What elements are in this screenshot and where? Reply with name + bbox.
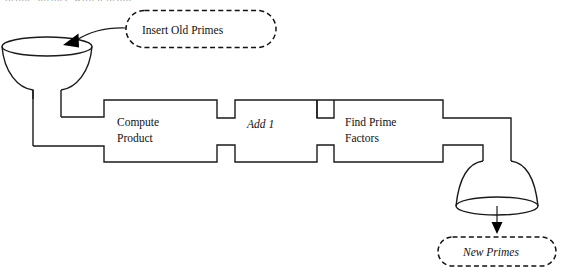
stage-compute-product-label-line2: Product [117, 132, 154, 144]
output-arrow-head [492, 222, 503, 234]
diagram-canvas: Insert Old Primes Compute Product Add 1 … [0, 0, 567, 270]
pipeline-connectors [317, 100, 334, 118]
stage-find-prime-factors-label-line2: Factors [345, 132, 379, 144]
connector-add1-left-top [317, 100, 334, 118]
input-funnel [2, 37, 92, 146]
stage-find-prime-factors-label-line1: Find Prime [345, 116, 396, 128]
stage-add-one[interactable]: Add 1 [246, 118, 274, 130]
pipeline-bottom-wall [33, 145, 483, 162]
insert-arrow-head [63, 34, 79, 48]
stage-compute-product[interactable]: Compute Product [117, 116, 159, 144]
new-primes-label: New Primes [462, 246, 519, 258]
new-primes-callout[interactable]: New Primes [438, 237, 556, 266]
pipeline-outline [33, 100, 511, 162]
insert-arrow-line [76, 28, 126, 41]
insert-old-primes-label: Insert Old Primes [142, 24, 224, 36]
prime-machine-diagram: prime surface with a prime Insert Old Pr… [0, 0, 567, 270]
stage-compute-product-label-line1: Compute [117, 116, 159, 129]
insert-arrow [63, 28, 126, 48]
insert-old-primes-callout[interactable]: Insert Old Primes [126, 11, 276, 48]
input-funnel-bowl [2, 47, 92, 100]
stage-add-one-label-line1: Add 1 [246, 118, 274, 130]
output-arrow [492, 206, 503, 234]
input-funnel-spout [33, 90, 61, 146]
stage-find-prime-factors[interactable]: Find Prime Factors [345, 116, 396, 144]
